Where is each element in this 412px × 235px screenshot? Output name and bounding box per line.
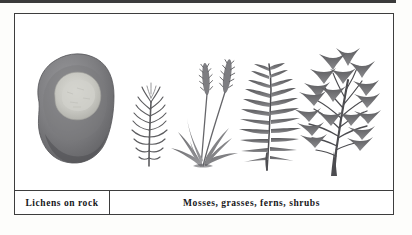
grass-base [193, 164, 213, 168]
caption-cell-plants: Mosses, grasses, ferns, shrubs [110, 191, 393, 214]
shrub-branches [309, 66, 367, 174]
shrub-illustration [294, 48, 381, 176]
page-top-rule [0, 0, 396, 3]
caption-row: Lichens on rock Mosses, grasses, ferns, … [15, 190, 393, 214]
illustration-svg [15, 14, 393, 190]
moss-stem [149, 102, 151, 166]
caption-cell-lichens: Lichens on rock [15, 191, 110, 214]
grass-seed-heads [198, 58, 236, 95]
lichen-highlight [62, 79, 95, 111]
rock-with-lichen-illustration [38, 54, 114, 163]
moss-sprig-illustration [132, 83, 167, 166]
fern-stipe [266, 153, 267, 170]
fern-frond-illustration [239, 63, 301, 170]
grass-clump-illustration [171, 58, 238, 167]
illustration-band [15, 14, 393, 190]
figure-frame: Lichens on rock Mosses, grasses, ferns, … [14, 13, 394, 215]
